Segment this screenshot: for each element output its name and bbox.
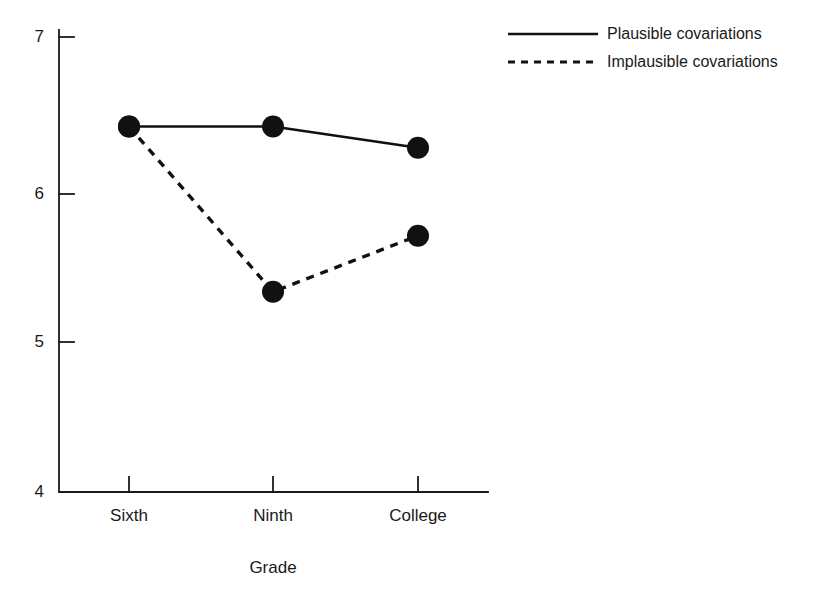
series-plausible-covariations xyxy=(118,115,429,158)
y-axis-tick-labels: 7 6 5 4 xyxy=(35,27,44,501)
data-point-implausible-ninth xyxy=(262,281,284,303)
y-tick-label-4: 4 xyxy=(35,482,44,501)
x-category-label-ninth: Ninth xyxy=(253,506,293,525)
y-tick-label-7: 7 xyxy=(35,27,44,46)
x-axis-category-labels: Sixth Ninth College xyxy=(110,506,447,525)
data-point-implausible-college xyxy=(407,225,429,247)
legend-label-plausible: Plausible covariations xyxy=(607,25,762,42)
series-line-dashed xyxy=(129,126,418,291)
data-point-plausible-ninth xyxy=(262,115,284,137)
legend-label-implausible: Implausible covariations xyxy=(607,53,778,70)
axis-group xyxy=(59,30,488,492)
y-tick-label-5: 5 xyxy=(35,332,44,351)
chart-figure: 7 6 5 4 Sixth Ninth College Grade xyxy=(0,0,826,606)
x-category-label-sixth: Sixth xyxy=(110,506,148,525)
line-chart: 7 6 5 4 Sixth Ninth College Grade xyxy=(0,0,826,606)
x-axis-title: Grade xyxy=(249,558,296,577)
axis-lines xyxy=(59,30,488,492)
y-tick-label-6: 6 xyxy=(35,184,44,203)
data-point-plausible-college xyxy=(407,137,429,159)
chart-legend: Plausible covariations Implausible covar… xyxy=(508,25,778,70)
x-category-label-college: College xyxy=(389,506,447,525)
data-point-plausible-sixth xyxy=(118,115,140,137)
